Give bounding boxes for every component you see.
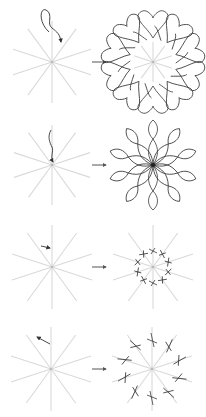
row-4-group [11, 327, 192, 411]
row-1-group [13, 9, 206, 116]
row-3-group [12, 225, 193, 309]
symmetry-diagram [0, 0, 206, 417]
row-2-group [14, 120, 197, 210]
